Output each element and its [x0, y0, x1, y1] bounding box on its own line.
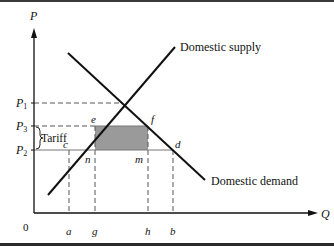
point-c: c	[63, 138, 68, 150]
point-d: d	[175, 138, 181, 150]
point-f: f	[151, 113, 156, 125]
point-n: n	[85, 153, 91, 165]
origin-label: 0	[23, 221, 29, 233]
tariff-diagram: P Q 0 P1 P3 P2 Tariff a g h b e f c d n …	[0, 0, 334, 249]
p1-label: P1	[15, 96, 27, 111]
p2-label: P2	[15, 143, 27, 158]
x-axis-label: Q	[321, 207, 330, 221]
tick-b: b	[170, 225, 176, 237]
y-axis-arrow-icon	[31, 28, 37, 38]
point-e: e	[91, 113, 96, 125]
demand-label: Domestic demand	[211, 174, 298, 188]
y-axis-label: P	[29, 9, 38, 23]
supply-curve	[48, 47, 175, 195]
p3-label: P3	[15, 119, 27, 134]
tick-h: h	[145, 225, 151, 237]
supply-label: Domestic supply	[180, 40, 261, 54]
point-m: m	[135, 153, 143, 165]
tick-a: a	[66, 225, 72, 237]
x-axis-arrow-icon	[308, 210, 318, 216]
tick-g: g	[92, 225, 98, 237]
